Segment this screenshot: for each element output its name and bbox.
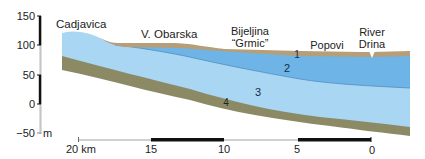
scale-bar: 20 km 15 10 5 0 [66,137,375,156]
layer-label-4: 4 [223,97,229,108]
scale-tick-label: 0 [369,144,375,156]
cross-section-diagram: 150 100 50 0 −50 m 1 2 3 4 Cadjavica V. … [0,0,425,159]
location-drina: Drina [359,38,386,50]
layer-label-1: 1 [294,49,300,60]
location-v-obarska: V. Obarska [141,28,198,40]
vertical-axis: 150 100 50 0 −50 m [16,10,52,139]
location-grmic: “Grmic” [232,37,269,49]
location-river: River [359,26,385,38]
axis-unit-label: m [43,127,52,139]
axis-tick-label: −50 [16,127,35,139]
axis-tick-label: 50 [23,69,35,81]
scale-segment-light [224,139,298,141]
scale-segment-dark [298,138,371,142]
axis-tick-label: 150 [17,10,35,22]
location-cadjavica: Cadjavica [56,18,107,30]
axis-tick-label: 100 [17,39,35,51]
location-popovi: Popovi [310,39,344,51]
scale-segment-light [78,139,151,141]
scale-tick-label: 10 [218,143,230,155]
scale-tick-label: 15 [145,143,157,155]
scale-tick-label: 5 [294,143,300,155]
scale-tick-label: 20 km [66,143,96,155]
axis-tick-label: 0 [29,98,35,110]
location-bijeljina: Bijeljina [231,25,270,37]
layer-label-3: 3 [255,86,261,98]
layer-label-2: 2 [284,62,290,74]
scale-segment-dark [151,138,224,142]
